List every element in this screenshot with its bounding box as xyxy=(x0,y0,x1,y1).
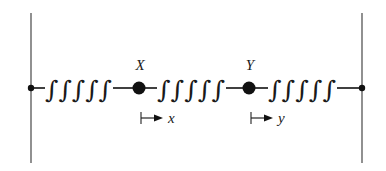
mass-X xyxy=(133,82,146,95)
spring-3: ∫∫∫∫∫ xyxy=(268,76,336,104)
mass-X-label: X xyxy=(134,57,145,73)
mass-Y xyxy=(243,82,256,95)
displacement-arrow-x xyxy=(141,112,163,124)
displacement-arrow-y xyxy=(251,112,273,124)
spring-2: ∫∫∫∫∫ xyxy=(157,76,225,104)
spring-1: ∫∫∫∫∫ xyxy=(45,76,112,104)
arrowhead-icon xyxy=(154,115,163,122)
spring-mass-diagram: ∫∫∫∫∫ ∫∫∫∫∫ ∫∫∫∫∫ X Y x y xyxy=(0,0,386,171)
arrowhead-icon xyxy=(264,115,273,122)
displacement-label-x: x xyxy=(167,110,175,126)
displacement-label-y: y xyxy=(276,110,285,126)
mass-Y-label: Y xyxy=(246,57,256,73)
